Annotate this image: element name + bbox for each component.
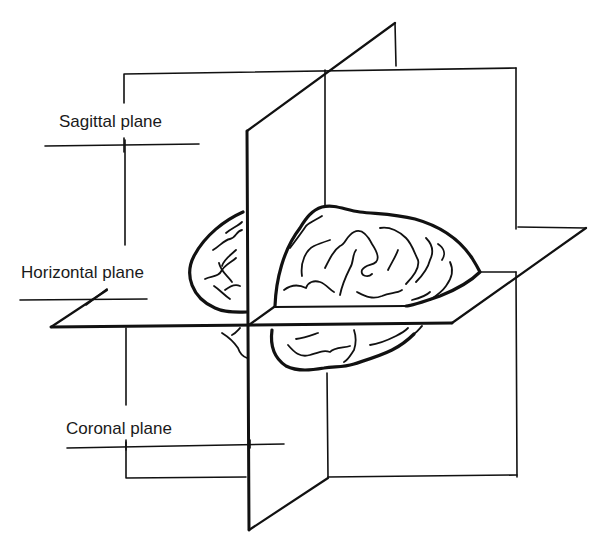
brain-left-portion — [190, 212, 247, 358]
horizontal-leader-lines — [20, 289, 147, 305]
coronal-plane — [124, 68, 517, 478]
brain-right-upper — [275, 206, 480, 306]
brain-right-lower — [272, 326, 422, 370]
diagram-canvas: Sagittal plane Horizontal plane Coronal … — [0, 0, 596, 547]
coronal-plane-label: Coronal plane — [66, 420, 172, 437]
sagittal-plane — [247, 23, 396, 530]
sagittal-plane-label: Sagittal plane — [59, 113, 162, 130]
sagittal-leader-lines — [45, 138, 199, 152]
coronal-leader-lines — [67, 440, 284, 450]
horizontal-plane-label: Horizontal plane — [21, 264, 144, 281]
